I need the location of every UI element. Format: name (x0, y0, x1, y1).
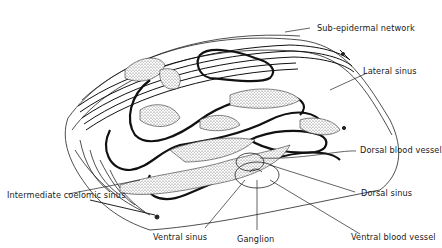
label-dorsal-blood-vessel: Dorsal blood vessel (360, 145, 442, 155)
label-ventral-blood-vessel: Ventral blood vessel (351, 232, 436, 242)
label-dorsal-sinus: Dorsal sinus (361, 188, 412, 198)
label-lateral-sinus: Lateral sinus (363, 66, 417, 76)
label-intermediate-coelomic-sinus: Intermediate coelomic sinus (7, 190, 126, 200)
body-outline (65, 35, 398, 230)
label-ganglion: Ganglion (237, 234, 274, 244)
label-ventral-sinus: Ventral sinus (153, 232, 207, 242)
stippled-tissue (120, 58, 340, 194)
vascular-diagram (0, 0, 442, 248)
label-sub-epidermal-network: Sub-epidermal network (317, 23, 415, 33)
